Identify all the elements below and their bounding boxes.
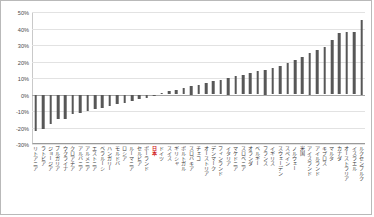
x-label-slot: ポルトガル <box>180 146 187 171</box>
bar <box>360 20 363 94</box>
x-label-slot: ウクライナ <box>62 146 69 171</box>
x-label-slot: マケドニア <box>232 146 239 171</box>
x-axis-label: ベラルーシ <box>99 146 105 171</box>
bar-slot <box>113 12 120 144</box>
x-label-slot: セルビア <box>136 146 143 166</box>
bar <box>264 70 267 95</box>
bar <box>123 95 126 103</box>
x-label-slot: ベルギー <box>254 146 261 166</box>
bar <box>175 90 178 95</box>
x-axis-label: ラトビア <box>40 146 46 166</box>
x-axis-label: フランス <box>262 146 268 166</box>
bar <box>220 80 223 95</box>
bar-slot <box>173 12 180 144</box>
bar-slot <box>158 12 165 144</box>
bar-slot <box>350 12 357 144</box>
x-axis-label: キプロス <box>322 146 328 166</box>
bar <box>183 88 186 95</box>
x-axis-label: 米国 <box>299 146 305 156</box>
x-axis-label: オーストラリア <box>344 146 350 181</box>
x-axis-label: スペイン <box>285 146 291 166</box>
bar-slot <box>180 12 187 144</box>
bar-slot <box>210 12 217 144</box>
x-label-slot: ブルガリア <box>54 146 61 171</box>
plot-area: 50%40%30%20%10%0%-10%-20%-30% <box>32 12 365 144</box>
bar <box>146 95 149 98</box>
bar <box>323 47 326 95</box>
x-axis-label: スウェーデン <box>277 146 283 176</box>
x-label-slot: アルバニア <box>76 146 83 171</box>
bar-slot <box>69 12 76 144</box>
bar <box>138 95 141 100</box>
x-label-slot: アルメニア <box>84 146 91 171</box>
x-axis-label: オランダ <box>247 146 253 166</box>
bar-slot <box>106 12 113 144</box>
x-axis-label: チェコ <box>196 146 202 161</box>
gridline--30: -30% <box>32 144 365 145</box>
x-label-slot: デンマーク <box>210 146 217 171</box>
bar-slot <box>121 12 128 144</box>
x-axis-label: ロシア <box>122 146 128 161</box>
bar <box>42 95 45 130</box>
x-label-slot: イタリア <box>225 146 232 166</box>
bar <box>353 32 356 95</box>
x-label-slot: 日本 <box>151 146 158 156</box>
x-axis-label: ドイツ <box>159 146 165 161</box>
bar-slot <box>32 12 39 144</box>
bar <box>160 93 163 95</box>
x-label-slot: スロバキア <box>188 146 195 171</box>
bar-slot <box>62 12 69 144</box>
x-axis-label: オーストリア <box>203 146 209 176</box>
bar <box>79 95 82 113</box>
bar <box>190 86 193 94</box>
bar-slot <box>54 12 61 144</box>
bar-slot <box>84 12 91 144</box>
x-label-slot: ノルウェー <box>291 146 298 171</box>
bar-slot <box>276 12 283 144</box>
bar <box>168 91 171 94</box>
bar-slot <box>91 12 98 144</box>
bar <box>57 95 60 120</box>
x-axis-label: アイスランド <box>307 146 313 176</box>
x-label-slot: イスラエル <box>350 146 357 171</box>
x-label-slot: ハンガリー <box>106 146 113 171</box>
bar <box>64 95 67 120</box>
x-axis-label-highlighted: 日本 <box>151 146 157 156</box>
x-axis-labels: リトアニアラトビアジョージアブルガリアウクライナクロアチアアルバニアアルメニアエ… <box>32 146 365 210</box>
x-label-slot: アイルランド <box>313 146 320 176</box>
bar-slot <box>39 12 46 144</box>
x-axis-label: ノルウェー <box>292 146 298 171</box>
x-axis-label: ポルトガル <box>181 146 187 171</box>
x-axis-label: ギリシャ <box>173 146 179 166</box>
bar-slot <box>128 12 135 144</box>
bar-slot <box>217 12 224 144</box>
x-label-slot: オーストラリア <box>343 146 350 181</box>
x-label-slot: マルタ <box>328 146 335 161</box>
bar <box>131 95 134 102</box>
x-label-slot: チェコ <box>195 146 202 161</box>
x-axis-label: モルドバ <box>114 146 120 166</box>
x-axis-label: クロアチア <box>70 146 76 171</box>
x-label-slot: スイス <box>165 146 172 161</box>
bar-slot <box>225 12 232 144</box>
x-axis-label: スロベニア <box>240 146 246 171</box>
bar <box>308 53 311 94</box>
bar <box>279 66 282 94</box>
bar-slot <box>343 12 350 144</box>
x-axis-label: スイス <box>166 146 172 161</box>
bar <box>101 95 104 108</box>
bar-slot <box>239 12 246 144</box>
bar <box>294 60 297 95</box>
x-axis-label: カナダ <box>336 146 342 161</box>
bar <box>108 95 111 107</box>
bar-slot <box>254 12 261 144</box>
bar-slot <box>269 12 276 144</box>
y-axis-tick: 10% <box>18 76 29 82</box>
bar <box>257 71 260 94</box>
x-label-slot: ギリシャ <box>173 146 180 166</box>
y-axis-tick: -20% <box>16 126 29 132</box>
x-axis-label: スロバキア <box>188 146 194 171</box>
x-axis-label: フィンランド <box>218 146 224 176</box>
x-label-slot: カナダ <box>336 146 343 161</box>
x-label-slot: リトアニア <box>32 146 39 171</box>
